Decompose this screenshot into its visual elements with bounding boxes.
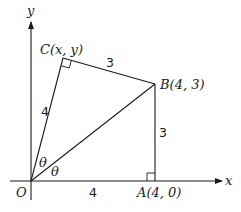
origin-label: O <box>16 185 27 200</box>
length-bc-label: 3 <box>106 55 114 70</box>
angle-aob-label: θ <box>51 164 59 179</box>
point-b-label: B(4, 3) <box>159 77 205 92</box>
angle-boc-label: θ <box>39 155 47 170</box>
segment-ob <box>31 84 155 181</box>
length-oc-label: 4 <box>41 104 49 119</box>
length-ab-label: 3 <box>159 125 167 140</box>
point-c-label: C(x, y) <box>40 42 83 57</box>
right-angle-marker-a <box>147 173 155 181</box>
geometry-diagram: x y O C(x, y) B(4, 3) A(4, 0) 4 3 3 4 θ … <box>0 0 241 212</box>
y-axis-label: y <box>26 3 35 18</box>
segment-oc <box>31 58 63 181</box>
point-a-label: A(4, 0) <box>136 185 181 200</box>
length-oa-label: 4 <box>89 185 97 200</box>
x-axis-label: x <box>225 173 233 188</box>
